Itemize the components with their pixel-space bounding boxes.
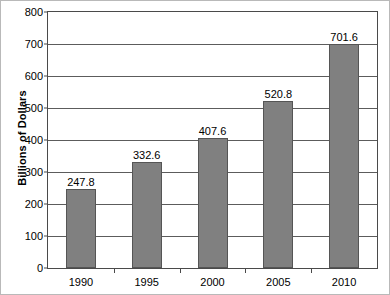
y-axis-tick-label: 700 [25,38,43,50]
bar: 247.8 [66,189,96,268]
bar-chart-figure: 0100200300400500600700800 Billions of Do… [0,0,390,295]
bar-value-label: 332.6 [133,149,161,161]
y-axis-tick-mark [44,172,48,173]
bar: 520.8 [263,101,293,268]
bar-value-label: 701.6 [330,31,358,43]
y-axis-tick-label: 0 [37,262,43,274]
x-axis-tick-label: 2000 [200,276,224,288]
x-axis-tick-mark [311,268,312,273]
y-axis-tick-label: 800 [25,6,43,18]
gridline [48,108,377,109]
y-axis-title: Billions of Dollars [16,58,28,218]
plot-area: 0100200300400500600700800 Billions of Do… [47,11,378,269]
x-axis-tick-mark [180,268,181,273]
bar: 407.6 [198,138,228,268]
y-axis-tick-mark [44,76,48,77]
x-axis-tick-mark [245,268,246,273]
bar-value-label: 520.8 [265,88,293,100]
x-axis-tick-label: 2005 [266,276,290,288]
y-axis-tick-mark [44,44,48,45]
y-axis-tick-mark [44,108,48,109]
bar: 332.6 [132,162,162,268]
bar: 701.6 [329,44,359,269]
bar-value-label: 407.6 [199,125,227,137]
x-axis-tick-mark [114,268,115,273]
y-axis-tick-mark [44,268,48,269]
x-axis-tick-label: 2010 [332,276,356,288]
gridline [48,44,377,45]
gridline [48,76,377,77]
x-axis-tick-label: 1995 [134,276,158,288]
x-axis-tick-label: 1990 [69,276,93,288]
y-axis-tick-mark [44,12,48,13]
bar-value-label: 247.8 [67,176,95,188]
y-axis-tick-mark [44,236,48,237]
y-axis-tick-label: 100 [25,230,43,242]
y-axis-tick-mark [44,140,48,141]
y-axis-tick-mark [44,204,48,205]
